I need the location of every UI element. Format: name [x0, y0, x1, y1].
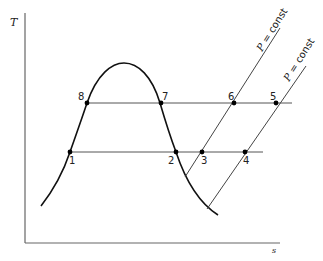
state-label-7: 7: [162, 91, 168, 102]
isobar-label-1-text: = const: [258, 6, 290, 47]
state-label-4: 4: [243, 155, 249, 166]
ts-diagram: T s P = const P = const 1 2 3 4 5 6 7 8: [0, 0, 323, 261]
state-point-3: [200, 150, 205, 155]
state-label-6: 6: [228, 91, 234, 102]
saturation-dome: [41, 63, 218, 215]
isobar-label-2-text: = const: [285, 36, 317, 77]
state-points: [68, 101, 279, 155]
isobar-label-1: P = const: [254, 6, 290, 54]
state-point-4: [243, 150, 248, 155]
state-label-8: 8: [78, 91, 84, 102]
state-label-2: 2: [168, 155, 174, 166]
state-label-5: 5: [270, 91, 276, 102]
state-point-2: [174, 150, 179, 155]
state-point-8: [85, 101, 90, 106]
state-labels: 1 2 3 4 5 6 7 8: [69, 91, 276, 166]
x-axis-label: s: [272, 246, 276, 255]
axes: T s: [10, 13, 280, 255]
state-point-1: [68, 150, 73, 155]
state-label-3: 3: [201, 155, 207, 166]
state-label-1: 1: [69, 155, 75, 166]
y-axis-label: T: [10, 16, 19, 29]
isobar-line-2: [207, 66, 306, 209]
